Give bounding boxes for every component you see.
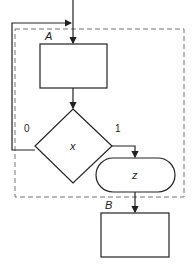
terminal-label: z xyxy=(131,169,138,181)
x-to-z-arrow xyxy=(112,146,135,157)
branch-1-label: 1 xyxy=(115,123,121,134)
process-box-b xyxy=(101,213,169,257)
label-a: A xyxy=(44,30,52,42)
flowchart-diagram: A x 0 1 z B xyxy=(0,0,194,266)
decision-label: x xyxy=(69,140,76,152)
label-b: B xyxy=(105,199,112,211)
process-box-a xyxy=(40,44,107,88)
branch-0-label: 0 xyxy=(24,123,30,134)
